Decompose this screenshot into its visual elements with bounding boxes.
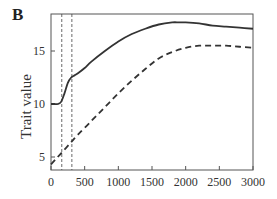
axes bbox=[51, 14, 253, 170]
x-tick-label: 2500 bbox=[207, 175, 231, 189]
x-tick-label: 2000 bbox=[174, 175, 198, 189]
x-tick-label: 1000 bbox=[106, 175, 130, 189]
y-tick-label: 15 bbox=[33, 44, 45, 58]
line-chart: 05001000150020002500300051015 bbox=[0, 0, 277, 199]
y-tick-label: 5 bbox=[39, 150, 45, 164]
series-lines bbox=[51, 22, 253, 164]
x-tick-label: 1500 bbox=[140, 175, 164, 189]
x-tick-label: 3000 bbox=[241, 175, 265, 189]
plot-frame bbox=[51, 14, 253, 170]
y-tick-label: 10 bbox=[33, 97, 45, 111]
tick-labels: 05001000150020002500300051015 bbox=[33, 44, 265, 189]
series-dashed-line bbox=[51, 46, 253, 165]
x-tick-label: 500 bbox=[76, 175, 94, 189]
x-tick-label: 0 bbox=[48, 175, 54, 189]
